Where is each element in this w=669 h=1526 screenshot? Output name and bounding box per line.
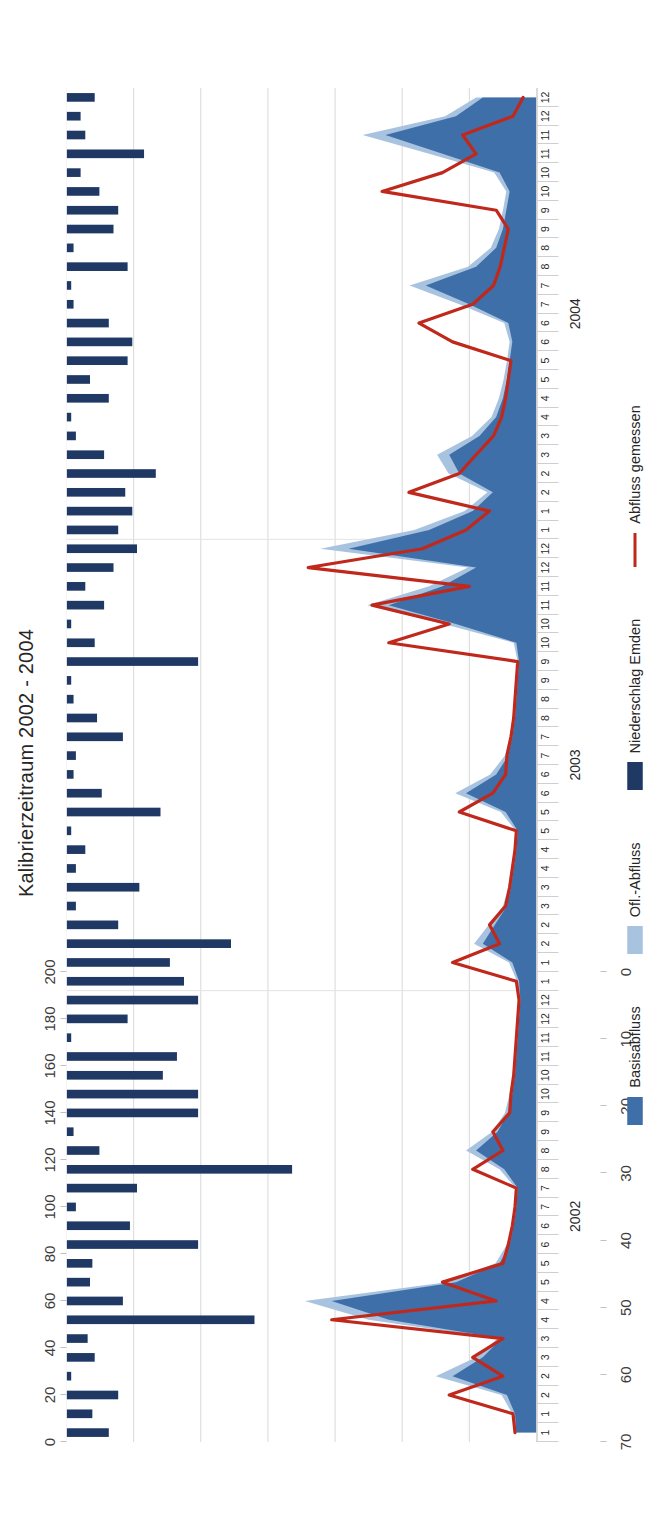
legend-item[interactable]: Ofl.-Abfluss — [626, 842, 642, 954]
month-tick-mark — [536, 745, 558, 746]
precipitation-bar — [66, 338, 132, 347]
month-tick-label: 1 — [538, 527, 550, 533]
month-tick-mark — [536, 933, 558, 934]
month-tick-label: 6 — [538, 771, 550, 777]
month-tick-mark — [536, 1328, 558, 1329]
month-tick-label: 12 — [538, 1013, 550, 1025]
month-tick-mark — [536, 162, 558, 163]
precipitation-bar — [66, 206, 118, 215]
month-tick-mark — [536, 820, 558, 821]
month-tick-label: 8 — [538, 696, 550, 702]
month-tick-label: 9 — [538, 677, 550, 683]
legend-label: Basisabfluss — [626, 1006, 642, 1087]
month-tick-mark — [536, 125, 558, 126]
month-tick-label: 5 — [538, 1279, 550, 1285]
precipitation-bar — [66, 1109, 198, 1118]
precipitation-bar — [66, 751, 75, 760]
precipitation-bar — [66, 1184, 137, 1193]
precipitation-bar — [66, 1353, 94, 1362]
legend-box-icon — [627, 1097, 642, 1125]
year-label: 2004 — [566, 298, 582, 329]
month-tick-label: 11 — [538, 581, 550, 592]
precip-tick-mark — [60, 1394, 66, 1395]
month-tick-label: 12 — [538, 92, 550, 104]
month-tick-mark — [536, 764, 558, 765]
precipitation-bar — [66, 319, 108, 328]
precipitation-bar — [66, 225, 113, 234]
month-tick-label: 2 — [538, 489, 550, 495]
legend-item[interactable]: Basisabfluss — [626, 1006, 642, 1124]
legend-box-icon — [627, 926, 642, 954]
legend-item[interactable]: Abfluss gemessen — [626, 405, 642, 566]
legend-label: Abfluss gemessen — [626, 405, 642, 523]
precipitation-bar — [66, 808, 160, 817]
precipitation-bar — [66, 1071, 162, 1080]
precipitation-bar — [66, 601, 104, 610]
month-tick-mark — [536, 614, 558, 615]
precipitation-bar — [66, 864, 75, 873]
month-tick-label: 11 — [538, 1051, 550, 1062]
precipitation-bar — [66, 1428, 108, 1437]
precipitation-bar — [66, 300, 73, 309]
precipitation-bar — [66, 996, 198, 1005]
precipitation-bar — [66, 1278, 90, 1287]
month-tick-mark — [536, 200, 558, 201]
month-tick-mark — [536, 501, 558, 502]
month-tick-label: 12 — [538, 543, 550, 555]
month-tick-mark — [536, 1215, 558, 1216]
precip-tick-mark — [60, 1112, 66, 1113]
month-tick-mark — [536, 877, 558, 878]
discharge-tick-mark — [600, 1172, 606, 1173]
month-tick-mark — [536, 952, 558, 953]
month-tick-label: 4 — [538, 866, 550, 872]
month-tick-label: 10 — [538, 167, 550, 179]
precipitation-bar — [66, 1127, 73, 1136]
discharge-tick-mark — [600, 1441, 606, 1442]
month-tick-label: 7 — [538, 1185, 550, 1191]
precipitation-bar — [66, 582, 85, 591]
precipitation-bar — [66, 563, 113, 572]
discharge-tick-mark — [600, 1374, 606, 1375]
precipitation-bar — [66, 544, 137, 553]
month-tick-mark — [536, 294, 558, 295]
precipitation-bar — [66, 149, 144, 158]
month-tick-label: 3 — [538, 1354, 550, 1360]
month-tick-label: 3 — [538, 884, 550, 890]
legend-item[interactable]: Niederschlag Emden — [626, 619, 642, 791]
month-tick-mark — [536, 990, 558, 991]
precip-tick-mark — [60, 971, 66, 972]
precipitation-bar — [66, 1203, 75, 1212]
month-tick-label: 10 — [538, 1088, 550, 1100]
precipitation-bar — [66, 244, 73, 253]
month-tick-label: 6 — [538, 790, 550, 796]
precip-tick-label: 80 — [40, 1246, 57, 1263]
precipitation-bar — [66, 676, 71, 685]
precip-tick-mark — [60, 1300, 66, 1301]
month-tick-label: 1 — [538, 978, 550, 984]
precipitation-bar — [66, 1165, 292, 1174]
month-tick-label: 9 — [538, 207, 550, 213]
month-tick-mark — [536, 1403, 558, 1404]
month-axis: 1122334455667788991010111112121122334455… — [536, 88, 566, 1442]
month-tick-label: 2 — [538, 1392, 550, 1398]
month-tick-label: 7 — [538, 283, 550, 289]
year-label: 2003 — [566, 749, 582, 780]
precipitation-bar — [66, 1409, 92, 1418]
month-tick-label: 4 — [538, 847, 550, 853]
precipitation-bar — [66, 657, 198, 666]
month-tick-mark — [536, 557, 558, 558]
precipitation-bar — [66, 450, 104, 459]
precipitation-bar — [66, 826, 71, 835]
month-tick-mark — [536, 1347, 558, 1348]
precipitation-bar — [66, 1297, 122, 1306]
month-tick-mark — [536, 1385, 558, 1386]
month-tick-mark — [536, 275, 558, 276]
precipitation-bar — [66, 488, 125, 497]
precip-tick-label: 180 — [40, 1006, 57, 1031]
discharge-tick-mark — [600, 971, 606, 972]
precipitation-bar — [66, 187, 99, 196]
precipitation-bar — [66, 413, 71, 422]
precipitation-bar — [66, 1391, 118, 1400]
hydrograph-figure: Kalibrierzeitraum 2002 - 2004 0204060801… — [0, 0, 669, 1526]
month-tick-mark — [536, 858, 558, 859]
